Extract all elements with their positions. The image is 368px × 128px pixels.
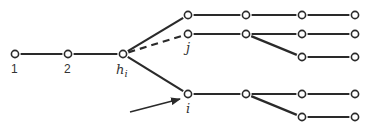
node-jb4: [351, 53, 358, 60]
node-t2: [242, 11, 249, 18]
node-jb3: [298, 53, 305, 60]
node-i2: [242, 90, 249, 97]
node-t4: [351, 11, 358, 18]
label-node-2: 2: [64, 62, 71, 76]
node-i: [184, 90, 191, 97]
label-node-1: 1: [11, 62, 18, 76]
edge-i2-ib3: [251, 96, 297, 115]
node-i4: [351, 90, 358, 97]
node-ib4: [351, 113, 358, 120]
edge-j2-jb3: [251, 36, 297, 55]
node-ib3: [298, 113, 305, 120]
node-j2: [242, 30, 249, 37]
edge-hi-i: [128, 57, 183, 91]
node-n1: [11, 50, 18, 57]
node-j3: [298, 30, 305, 37]
edge-hi-j: [128, 36, 182, 53]
arrow-pointer-to-i: [130, 99, 180, 112]
node-n2: [64, 50, 71, 57]
node-t3: [298, 11, 305, 18]
tree-diagram: 1 2 hi j i: [0, 0, 368, 128]
node-i3: [298, 90, 305, 97]
label-node-i: i: [186, 101, 190, 116]
node-t1: [184, 11, 191, 18]
label-node-h-i: hi: [116, 62, 128, 79]
diagram-svg: 1 2 hi j i: [0, 0, 368, 128]
node-hi: [119, 50, 126, 57]
edge-hi-t1: [128, 18, 183, 51]
node-j4: [351, 30, 358, 37]
node-j: [184, 30, 191, 37]
label-node-j: j: [183, 40, 190, 55]
